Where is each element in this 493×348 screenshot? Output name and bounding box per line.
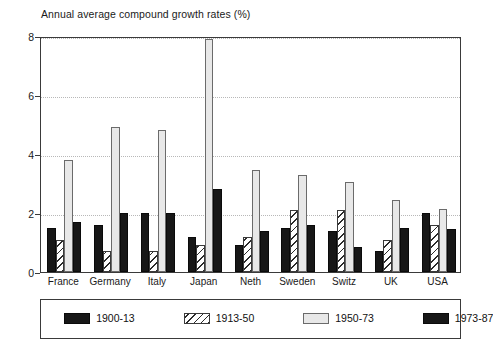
bar-italy-1900-13	[141, 213, 150, 272]
bar-germany-1973-87	[120, 213, 129, 272]
bar-sweden-1913-50	[290, 210, 299, 272]
bar-switz-1973-87	[354, 247, 363, 272]
plot-area	[40, 37, 461, 273]
bar-sweden-1973-87	[307, 225, 316, 272]
legend-swatch-1913-50	[184, 313, 210, 324]
gridline	[41, 156, 460, 157]
bar-japan-1900-13	[188, 237, 197, 272]
bar-france-1913-50	[56, 240, 65, 272]
legend-item-1950-73: 1950-73	[303, 312, 374, 324]
bar-uk-1950-73	[392, 200, 401, 272]
y-axis-tick	[35, 273, 40, 274]
bar-sweden-1900-13	[281, 228, 290, 272]
bar-neth-1900-13	[235, 245, 244, 272]
bar-neth-1913-50	[243, 237, 252, 272]
bar-neth-1973-87	[260, 231, 269, 272]
bar-japan-1913-50	[196, 245, 205, 272]
y-axis-label: 0	[4, 267, 34, 279]
bar-switz-1900-13	[328, 231, 337, 272]
legend-swatch-1950-73	[303, 313, 329, 324]
x-axis-label-france: France	[48, 276, 79, 287]
x-axis-label-germany: Germany	[90, 276, 131, 287]
bar-switz-1950-73	[345, 182, 354, 272]
x-axis-label-switz: Switz	[332, 276, 356, 287]
bar-italy-1950-73	[158, 130, 167, 272]
x-axis-label-neth: Neth	[240, 276, 261, 287]
legend-item-1900-13: 1900-13	[64, 312, 135, 324]
y-axis-label: 6	[4, 90, 34, 102]
bar-japan-1973-87	[213, 189, 222, 272]
legend-swatch-1900-13	[64, 313, 90, 324]
bar-france-1950-73	[64, 160, 73, 272]
bar-france-1900-13	[47, 228, 56, 272]
bar-neth-1950-73	[252, 170, 261, 272]
legend-item-1973-87: 1973-87	[423, 312, 493, 324]
bar-uk-1900-13	[375, 251, 384, 272]
legend-label-1973-87: 1973-87	[455, 312, 493, 324]
plot-inner	[41, 38, 460, 272]
bar-usa-1900-13	[422, 213, 431, 272]
bar-switz-1913-50	[337, 210, 346, 272]
bar-japan-1950-73	[205, 39, 214, 272]
chart-title: Annual average compound growth rates (%)	[41, 8, 250, 20]
gridline	[41, 38, 460, 39]
gridline	[41, 97, 460, 98]
x-axis-label-italy: Italy	[148, 276, 166, 287]
x-axis-label-uk: UK	[384, 276, 398, 287]
y-axis-tick	[35, 214, 40, 215]
bar-germany-1913-50	[103, 251, 112, 272]
bar-usa-1950-73	[439, 209, 448, 272]
legend-item-1913-50: 1913-50	[184, 312, 255, 324]
bar-germany-1950-73	[111, 127, 120, 272]
bar-uk-1973-87	[400, 228, 409, 272]
legend-label-1950-73: 1950-73	[335, 312, 374, 324]
y-axis-tick	[35, 96, 40, 97]
x-axis-label-usa: USA	[427, 276, 448, 287]
legend-label-1913-50: 1913-50	[216, 312, 255, 324]
x-axis-label-japan: Japan	[190, 276, 217, 287]
bar-germany-1900-13	[94, 225, 103, 272]
y-axis-label: 8	[4, 31, 34, 43]
y-axis-label: 4	[4, 149, 34, 161]
bar-italy-1973-87	[166, 213, 175, 272]
bar-sweden-1950-73	[298, 175, 307, 272]
bar-france-1973-87	[73, 222, 82, 272]
y-axis-label: 2	[4, 208, 34, 220]
legend-swatch-1973-87	[423, 313, 449, 324]
bar-uk-1913-50	[383, 240, 392, 272]
bar-usa-1973-87	[447, 229, 456, 272]
bar-usa-1913-50	[430, 225, 439, 272]
legend-label-1900-13: 1900-13	[96, 312, 135, 324]
y-axis-tick	[35, 37, 40, 38]
y-axis-tick	[35, 155, 40, 156]
bar-italy-1913-50	[149, 251, 158, 272]
x-axis-label-sweden: Sweden	[279, 276, 315, 287]
chart-legend: 1900-131913-501950-731973-87	[40, 299, 461, 339]
